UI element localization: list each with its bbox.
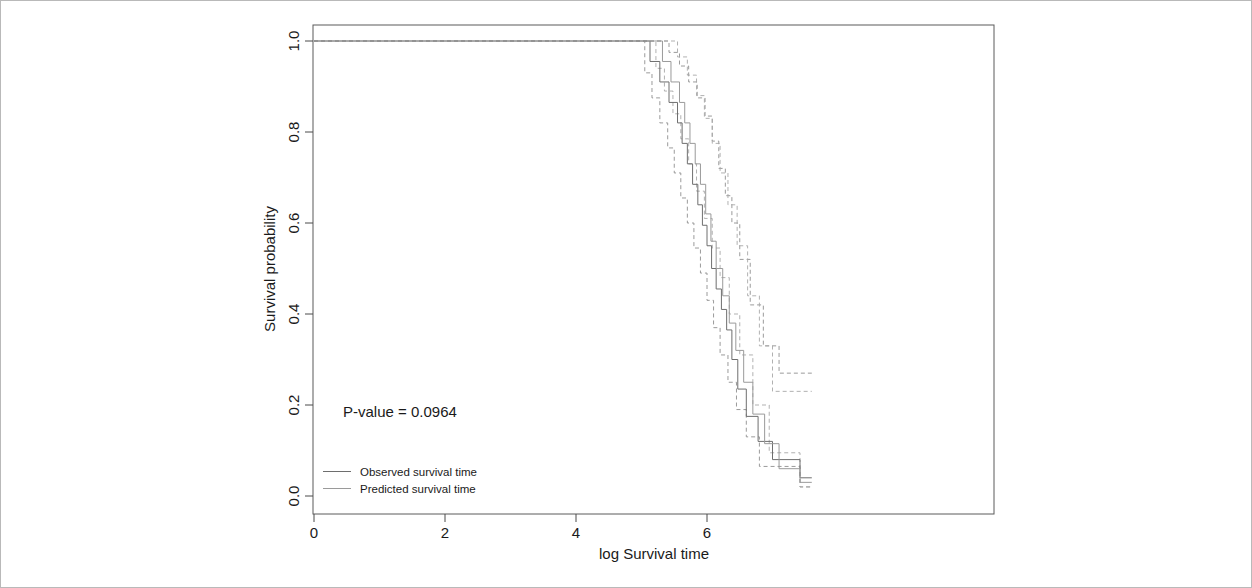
y-tick-label-3: 0.6 [285, 213, 302, 234]
axis-ticks [305, 41, 707, 522]
survival-plot-canvas [1, 1, 1252, 588]
legend-label: Observed survival time [360, 466, 477, 478]
curve-layer [314, 41, 812, 487]
legend-label: Predicted survival time [360, 483, 476, 495]
legend-entry-0: Observed survival time [323, 463, 553, 480]
x-tick-label-0: 0 [310, 524, 318, 541]
y-tick-label-0: 0.0 [285, 486, 302, 507]
series-5 [314, 41, 812, 487]
chart-legend: Observed survival timePredicted survival… [323, 463, 553, 497]
y-tick-label-1: 0.2 [285, 395, 302, 416]
plot-frame [313, 25, 994, 514]
x-axis-title: log Survival time [599, 545, 709, 562]
pvalue-annotation: P-value = 0.0964 [343, 403, 457, 420]
legend-entry-1: Predicted survival time [323, 480, 553, 497]
figure-panel: Survival probability log Survival time 0… [0, 0, 1252, 588]
y-axis-title: Survival probability [261, 206, 278, 332]
x-tick-label-2: 4 [572, 524, 580, 541]
x-tick-label-3: 6 [703, 524, 711, 541]
x-tick-label-1: 2 [441, 524, 449, 541]
y-tick-label-5: 1.0 [285, 31, 302, 52]
legend-line-icon [323, 488, 351, 489]
y-tick-label-4: 0.8 [285, 122, 302, 143]
series-4 [314, 41, 812, 391]
y-tick-label-2: 0.4 [285, 304, 302, 325]
legend-line-icon [323, 471, 351, 472]
series-3 [314, 41, 812, 487]
